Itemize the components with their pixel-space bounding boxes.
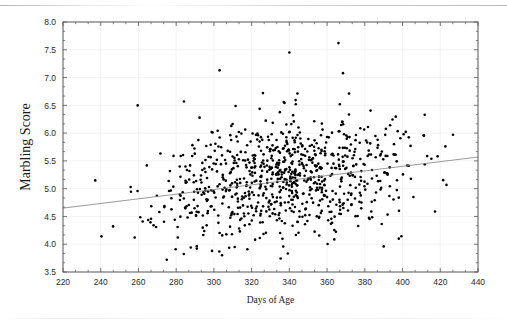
scatter-plot-figure: 220240260280300320340360380400420440 3.5… <box>0 0 507 323</box>
y-axis-tick-labels: 3.54.04.55.05.56.06.57.07.58.0 <box>44 17 56 277</box>
chart-canvas: 220240260280300320340360380400420440 3.5… <box>0 0 507 323</box>
y-tick-label: 6.5 <box>44 101 56 111</box>
y-axis-ticks <box>63 22 478 272</box>
x-axis-ticks <box>63 22 478 272</box>
x-tick-label: 240 <box>94 277 108 287</box>
y-tick-label: 6.0 <box>44 128 56 138</box>
x-tick-label: 440 <box>471 277 485 287</box>
y-axis-title: Marbling Score <box>18 103 33 190</box>
x-tick-label: 220 <box>56 277 70 287</box>
x-tick-label: 360 <box>320 277 334 287</box>
x-tick-label: 280 <box>169 277 183 287</box>
y-tick-label: 7.5 <box>44 45 56 55</box>
plot-frame <box>63 22 478 272</box>
gridlines <box>63 22 478 272</box>
y-tick-label: 4.5 <box>44 212 56 222</box>
y-tick-label: 5.0 <box>44 184 56 194</box>
x-tick-label: 420 <box>433 277 447 287</box>
x-axis-title: Days of Age <box>247 295 295 305</box>
x-tick-label: 260 <box>131 277 145 287</box>
y-tick-label: 3.5 <box>44 267 56 277</box>
x-tick-label: 340 <box>282 277 296 287</box>
x-tick-label: 400 <box>395 277 409 287</box>
x-tick-label: 380 <box>358 277 372 287</box>
y-tick-label: 8.0 <box>44 17 56 27</box>
data-points-layer <box>94 42 454 261</box>
y-tick-label: 4.0 <box>44 239 56 249</box>
x-axis-tick-labels: 220240260280300320340360380400420440 <box>56 277 485 287</box>
y-tick-label: 5.5 <box>44 156 56 166</box>
x-tick-label: 300 <box>207 277 221 287</box>
y-tick-label: 7.0 <box>44 73 56 83</box>
x-tick-label: 320 <box>245 277 259 287</box>
